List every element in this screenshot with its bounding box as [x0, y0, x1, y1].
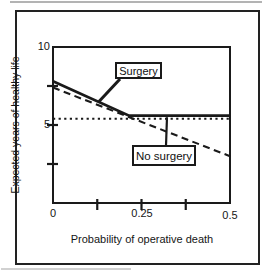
no-surgery-callout-leader: [166, 117, 167, 146]
no-surgery-callout-label: No surgery: [132, 145, 196, 166]
figure: 10 5 0 0.25 0.5 Probability of operative…: [0, 0, 272, 280]
x-axis-title: Probability of operative death: [36, 233, 248, 245]
y-axis-title: Expected years of healthy life: [9, 50, 23, 200]
surgery-callout-leader: [99, 79, 120, 102]
x-tick-label-05: 0.5: [214, 209, 246, 221]
surgery-callout-label: Surgery: [115, 62, 162, 79]
x-tick-label-025: 0.25: [126, 207, 158, 219]
y-tick-label-5: 5: [28, 118, 50, 130]
y-tick-label-10: 10: [28, 40, 50, 52]
x-tick-label-0: 0: [44, 207, 62, 219]
